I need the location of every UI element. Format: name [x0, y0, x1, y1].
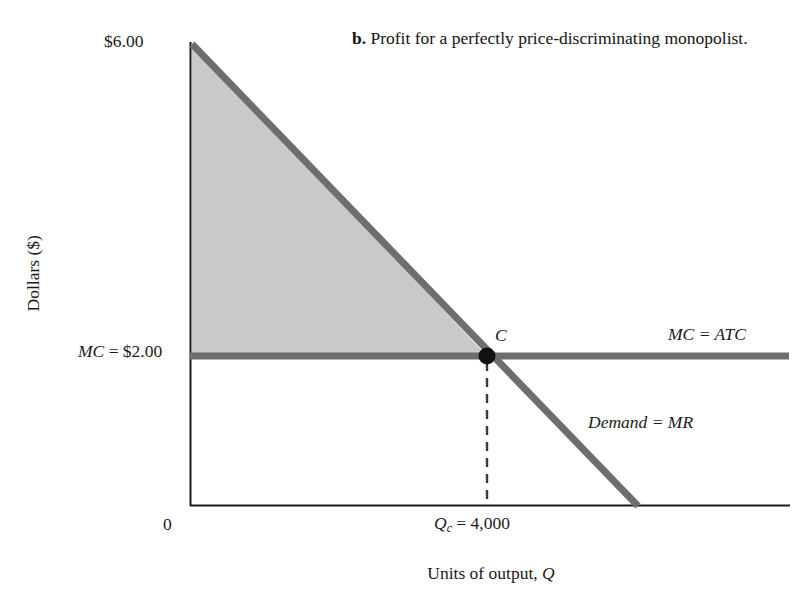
panel-caption: b. Profit for a perfectly price-discrimi…: [352, 28, 620, 49]
origin-label: 0: [163, 514, 172, 535]
quantity-symbol: Q: [434, 513, 447, 533]
demand-mr-curve-label: Demand = MR: [588, 412, 693, 433]
mc-atc-curve-label: MC = ATC: [668, 324, 746, 345]
chart-canvas: [0, 0, 792, 603]
x-axis-title: Units of output, Q: [341, 563, 641, 584]
mc-symbol: MC: [78, 341, 104, 361]
mc-price-value: = $2.00: [104, 341, 162, 361]
x-tick-label-qc: Qc = 4,000: [434, 513, 510, 534]
x-axis-title-text: Units of output,: [427, 563, 542, 583]
equilibrium-point-marker: [479, 348, 496, 365]
y-tick-label-mc: MC = $2.00: [78, 341, 162, 362]
panel-caption-text: Profit for a perfectly price-discriminat…: [370, 28, 747, 48]
y-axis-title: Dollars ($): [23, 213, 44, 333]
quantity-value: = 4,000: [452, 513, 510, 533]
equilibrium-point-label: C: [495, 325, 507, 346]
panel-letter: b.: [352, 28, 366, 48]
quantity-subscript: c: [447, 521, 452, 535]
figure-panel-b: b. Profit for a perfectly price-discrimi…: [0, 0, 792, 603]
y-tick-label-top: $6.00: [104, 31, 143, 52]
x-axis-title-variable: Q: [542, 563, 555, 583]
